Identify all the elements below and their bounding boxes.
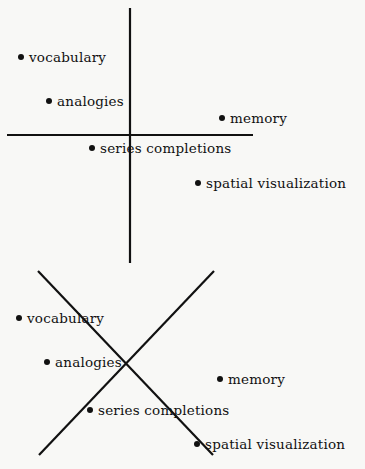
point-label: analogies <box>57 93 124 109</box>
dot-marker-icon <box>219 115 225 121</box>
dot-marker-icon <box>195 180 201 186</box>
point-label: memory <box>230 110 287 126</box>
point-label: vocabulary <box>29 49 106 65</box>
point-analogies-bottom: analogies <box>44 354 122 370</box>
dot-marker-icon <box>46 98 52 104</box>
point-series-completions-top: series completions <box>89 140 231 156</box>
factor-rotation-figure: vocabulary analogies memory series compl… <box>0 0 365 469</box>
point-label: analogies <box>55 354 122 370</box>
dot-marker-icon <box>194 441 200 447</box>
dot-marker-icon <box>89 145 95 151</box>
dot-marker-icon <box>16 315 22 321</box>
point-label: spatial visualization <box>206 175 346 191</box>
point-memory-top: memory <box>219 110 287 126</box>
dot-marker-icon <box>18 54 24 60</box>
point-vocabulary-top: vocabulary <box>18 49 106 65</box>
point-spatial-visualization-bottom: spatial visualization <box>194 436 345 452</box>
point-label: spatial visualization <box>205 436 345 452</box>
point-analogies-top: analogies <box>46 93 124 109</box>
point-memory-bottom: memory <box>217 371 285 387</box>
point-label: series completions <box>100 140 231 156</box>
point-spatial-visualization-top: spatial visualization <box>195 175 346 191</box>
dot-marker-icon <box>217 376 223 382</box>
dot-marker-icon <box>87 407 93 413</box>
point-label: vocabulary <box>27 310 104 326</box>
point-series-completions-bottom: series completions <box>87 402 229 418</box>
point-label: memory <box>228 371 285 387</box>
dot-marker-icon <box>44 359 50 365</box>
point-label: series completions <box>98 402 229 418</box>
point-vocabulary-bottom: vocabulary <box>16 310 104 326</box>
axes-layer <box>0 0 365 469</box>
